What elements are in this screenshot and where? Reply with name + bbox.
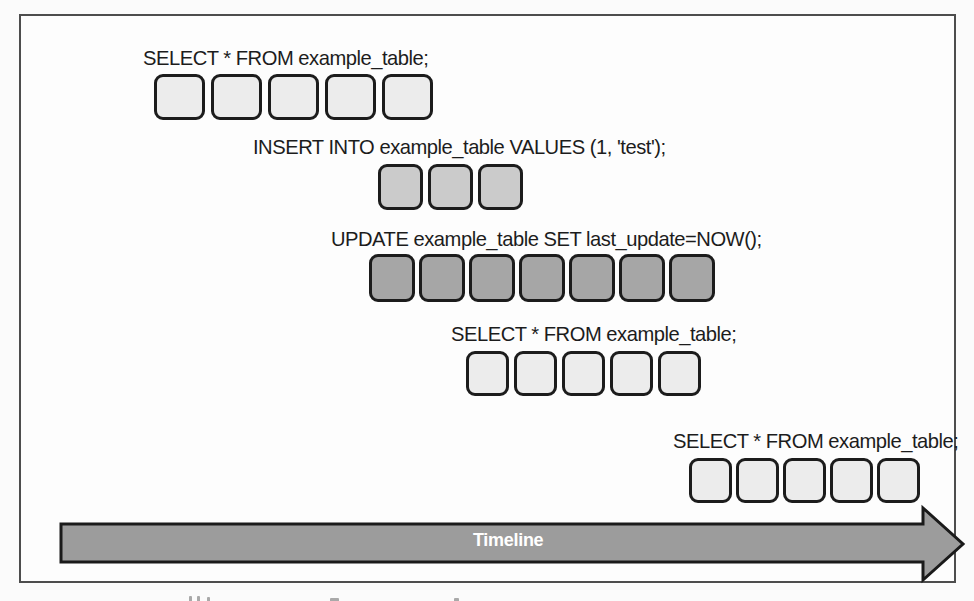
query-block <box>689 458 732 503</box>
query-block <box>369 254 415 302</box>
query-label: SELECT * FROM example_table; <box>143 46 428 70</box>
query-block <box>419 254 465 302</box>
query-block <box>382 74 433 120</box>
timeline-label: Timeline <box>473 530 543 551</box>
query-label: SELECT * FROM example_table; <box>451 322 736 346</box>
query-block <box>610 351 653 396</box>
query-label: SELECT * FROM example_table; <box>673 429 958 453</box>
query-block <box>325 74 376 120</box>
query-block <box>619 254 665 302</box>
query-block <box>658 351 701 396</box>
query-block <box>268 74 319 120</box>
figure-frame: SELECT * FROM example_table; INSERT INTO… <box>19 14 956 583</box>
query-block <box>154 74 205 120</box>
query-block <box>736 458 779 503</box>
query-block <box>783 458 826 503</box>
query-blocks <box>466 351 701 396</box>
query-block <box>211 74 262 120</box>
query-block <box>569 254 615 302</box>
query-label: UPDATE example_table SET last_update=NOW… <box>331 227 762 251</box>
query-block <box>562 351 605 396</box>
query-block <box>466 351 509 396</box>
query-blocks <box>378 164 523 210</box>
query-block <box>877 458 920 503</box>
query-blocks <box>369 254 715 302</box>
query-block <box>514 351 557 396</box>
query-blocks <box>689 458 920 503</box>
query-block <box>478 164 523 210</box>
query-label: INSERT INTO example_table VALUES (1, 'te… <box>253 135 666 159</box>
query-blocks <box>154 74 433 120</box>
query-block <box>428 164 473 210</box>
query-block <box>669 254 715 302</box>
query-block <box>378 164 423 210</box>
query-block <box>469 254 515 302</box>
query-block <box>830 458 873 503</box>
scanned-figure-page: SELECT * FROM example_table; INSERT INTO… <box>0 0 974 601</box>
query-block <box>519 254 565 302</box>
